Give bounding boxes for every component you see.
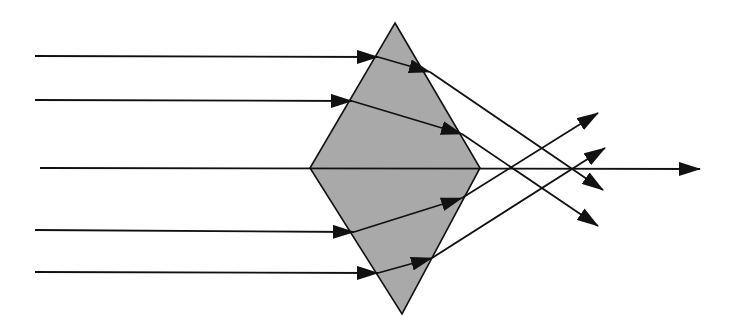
ray-2-outgoing-arrow — [462, 134, 598, 226]
ray-4-outgoing-arrow — [462, 113, 598, 198]
ray-2-incoming-arrow — [35, 100, 352, 101]
ray-5-incoming-arrow — [35, 272, 378, 273]
ray-1-incoming-arrow — [35, 56, 378, 57]
prism-ray-diagram — [0, 0, 734, 328]
ray-3-incoming-arrow — [40, 168, 700, 169]
ray-4-incoming-arrow — [35, 230, 354, 232]
